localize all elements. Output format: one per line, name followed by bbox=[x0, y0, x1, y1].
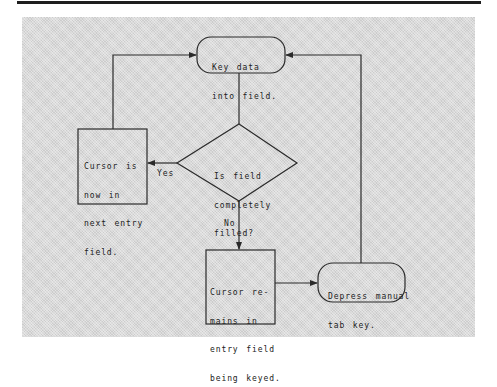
cursor-remains-label: Cursor re- mains in entry field being ke… bbox=[210, 269, 281, 387]
cursor-next-line-1: Cursor is bbox=[84, 162, 143, 172]
edge-loop-right bbox=[286, 55, 361, 263]
edge-label-yes: Yes bbox=[157, 169, 174, 179]
decision-line-1: Is field bbox=[214, 172, 271, 182]
depress-tab-label: Depress manual tab key. bbox=[328, 273, 410, 340]
edge-loop-left bbox=[113, 55, 196, 129]
cursor-next-line-3: next entry bbox=[84, 219, 143, 229]
decision-line-3: filled? bbox=[214, 229, 271, 239]
decision-label: Is field completely filled? bbox=[214, 153, 271, 248]
cursor-remains-line-4: being keyed. bbox=[210, 374, 281, 384]
edge-label-no: No bbox=[224, 219, 235, 229]
cursor-remains-line-2: mains in bbox=[210, 317, 281, 327]
start-line-1: Key data bbox=[212, 63, 277, 73]
start-terminal-label: Key data into field. bbox=[212, 44, 277, 111]
depress-line-1: Depress manual bbox=[328, 292, 410, 302]
cursor-next-label: Cursor is now in next entry field. bbox=[84, 143, 143, 267]
decision-line-2: completely bbox=[214, 201, 271, 211]
start-line-2: into field. bbox=[212, 92, 277, 102]
cursor-remains-line-3: entry field bbox=[210, 345, 281, 355]
cursor-next-line-2: now in bbox=[84, 191, 143, 201]
cursor-remains-line-1: Cursor re- bbox=[210, 288, 281, 298]
depress-line-2: tab key. bbox=[328, 321, 410, 331]
cursor-next-line-4: field. bbox=[84, 248, 143, 258]
